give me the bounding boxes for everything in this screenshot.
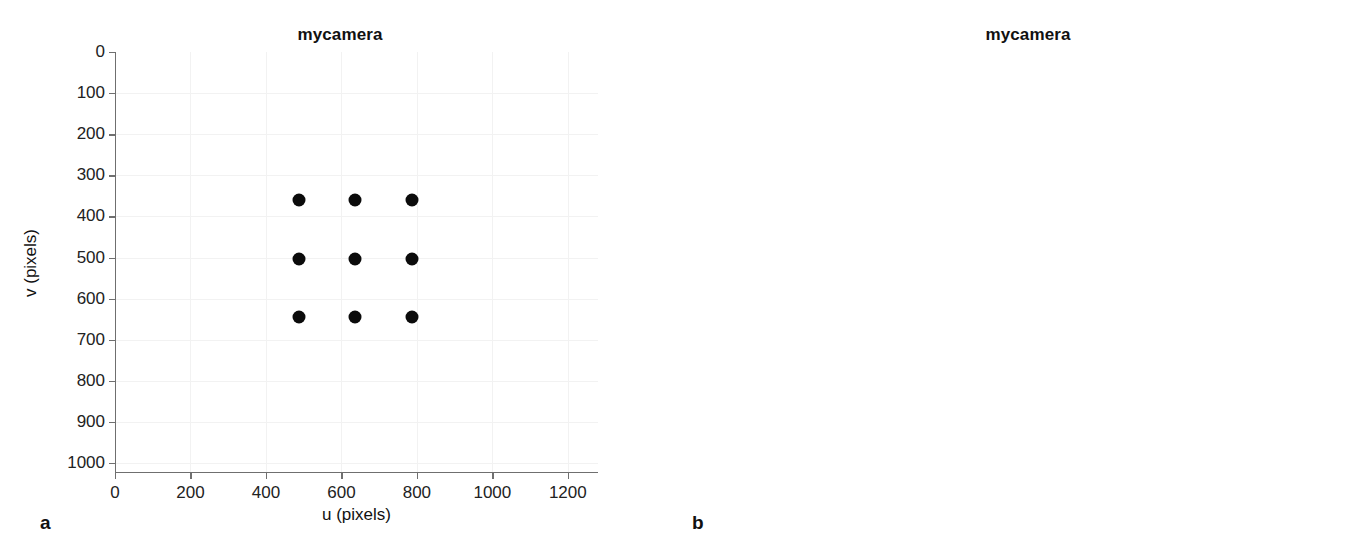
panel-letter-b: b [692, 512, 704, 534]
x-tick-mark [115, 473, 116, 479]
gridline-horizontal [115, 175, 598, 176]
data-point [293, 252, 306, 265]
gridline-horizontal [115, 93, 598, 94]
plot-area: 0100200300400500600700800900100002004006… [115, 52, 598, 473]
gridline-horizontal [115, 381, 598, 382]
gridline-vertical [492, 52, 493, 473]
gridline-horizontal [115, 422, 598, 423]
gridline-horizontal [115, 216, 598, 217]
data-point [405, 311, 418, 324]
gridline-vertical [341, 52, 342, 473]
x-tick-label: 1200 [549, 483, 587, 503]
y-tick-label: 600 [77, 289, 105, 309]
data-point [293, 194, 306, 207]
y-axis-label: v (pixels) [18, 52, 44, 473]
plot-title: mycamera [688, 25, 1360, 45]
x-tick-label: 400 [252, 483, 280, 503]
panel-b: mycamera01002003004005006007008009001000… [680, 0, 1360, 555]
gridline-vertical [190, 52, 191, 473]
x-tick-mark [190, 473, 191, 479]
y-tick-label: 500 [77, 248, 105, 268]
gridline-horizontal [115, 340, 598, 341]
y-tick-label: 200 [77, 124, 105, 144]
x-tick-mark [568, 473, 569, 479]
y-tick-label: 0 [96, 42, 105, 62]
x-tick-label: 0 [110, 483, 119, 503]
y-axis-line [115, 52, 116, 473]
x-tick-label: 600 [327, 483, 355, 503]
y-tick-label: 900 [77, 412, 105, 432]
y-tick-label: 100 [77, 83, 105, 103]
x-tick-mark [492, 473, 493, 479]
y-tick-label: 700 [77, 330, 105, 350]
data-point [405, 252, 418, 265]
x-tick-mark [266, 473, 267, 479]
y-tick-label: 300 [77, 165, 105, 185]
gridline-vertical [266, 52, 267, 473]
y-axis-label-text: v (pixels) [21, 228, 41, 296]
gridline-horizontal [115, 463, 598, 464]
gridline-vertical [568, 52, 569, 473]
y-tick-label: 800 [77, 371, 105, 391]
x-tick-label: 800 [403, 483, 431, 503]
data-point [349, 194, 362, 207]
gridline-vertical [417, 52, 418, 473]
gridline-horizontal [115, 299, 598, 300]
data-point [405, 194, 418, 207]
x-axis-line [115, 472, 598, 473]
panel-letter-a: a [40, 512, 51, 534]
x-tick-mark [341, 473, 342, 479]
x-tick-mark [417, 473, 418, 479]
data-point [349, 252, 362, 265]
x-axis-label: u (pixels) [115, 505, 598, 525]
y-tick-label: 1000 [67, 453, 105, 473]
gridline-horizontal [115, 134, 598, 135]
x-tick-label: 200 [176, 483, 204, 503]
x-tick-label: 1000 [473, 483, 511, 503]
data-point [293, 311, 306, 324]
y-tick-label: 400 [77, 206, 105, 226]
panel-a: mycamera01002003004005006007008009001000… [0, 0, 680, 555]
figure-canvas: mycamera01002003004005006007008009001000… [0, 0, 1360, 555]
data-point [349, 311, 362, 324]
